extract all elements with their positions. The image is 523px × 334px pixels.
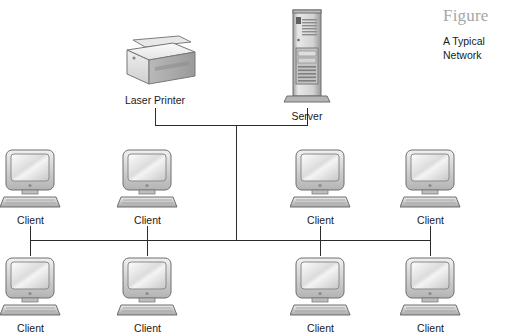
device-client-7[interactable]: Client [290, 256, 351, 334]
desktop-computer-icon [0, 148, 61, 212]
client-label: Client [0, 322, 61, 334]
wire-stub-client-4 [430, 226, 431, 241]
figure-caption-block: Figure A Typical Network [443, 6, 517, 62]
wire-stub-client-6 [147, 240, 148, 256]
device-client-8[interactable]: Client [400, 256, 461, 334]
wire-stub-client-2 [147, 226, 148, 241]
laser-printer-label: Laser Printer [107, 94, 203, 106]
laser-printer-icon [107, 22, 203, 92]
wire-central-trunk [236, 125, 237, 241]
desktop-computer-icon [400, 148, 461, 212]
wire-printer-drop [155, 108, 156, 126]
wire-stub-client-8 [430, 240, 431, 256]
device-client-6[interactable]: Client [117, 256, 178, 334]
client-label: Client [290, 214, 351, 226]
device-client-3[interactable]: Client [290, 148, 351, 226]
wire-stub-client-7 [320, 240, 321, 256]
desktop-computer-icon [290, 148, 351, 212]
client-label: Client [290, 322, 351, 334]
client-label: Client [400, 322, 461, 334]
wire-top-bus [155, 125, 308, 126]
server-label: Server [277, 110, 337, 122]
desktop-computer-icon [290, 256, 351, 320]
wire-stub-client-3 [320, 226, 321, 241]
device-server[interactable]: Server [277, 6, 337, 122]
device-client-4[interactable]: Client [400, 148, 461, 226]
desktop-computer-icon [400, 256, 461, 320]
client-label: Client [117, 214, 178, 226]
figure-heading: Figure [443, 6, 517, 26]
client-label: Client [117, 322, 178, 334]
device-laser-printer[interactable]: Laser Printer [107, 22, 203, 106]
wire-stub-client-1 [30, 226, 31, 241]
desktop-computer-icon [117, 148, 178, 212]
server-tower-icon [277, 6, 337, 108]
wire-main-bus [30, 240, 431, 241]
desktop-computer-icon [117, 256, 178, 320]
device-client-2[interactable]: Client [117, 148, 178, 226]
client-label: Client [0, 214, 61, 226]
device-client-5[interactable]: Client [0, 256, 61, 334]
desktop-computer-icon [0, 256, 61, 320]
wire-stub-client-5 [30, 240, 31, 256]
figure-caption-text: A Typical Network [443, 34, 517, 62]
client-label: Client [400, 214, 461, 226]
device-client-1[interactable]: Client [0, 148, 61, 226]
